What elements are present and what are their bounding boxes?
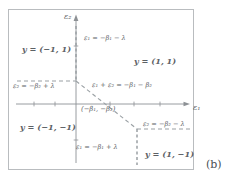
region-label-top-left: y = (−1, 1) (22, 45, 71, 53)
origin-point-label: (−β₁, −β₂) (81, 106, 115, 113)
lower-vertical-dashed-label: ε₁ = −β₁ + λ (76, 144, 118, 151)
diagonal-dashed-label: ε₁ + ε₂ = −β₁ − β₂ (92, 82, 152, 89)
figure-panel: ε₂ ε₁ ε₁ = −β₁ − λ ε₂ = −β₂ + λ ε₁ + ε₂ … (0, 0, 232, 187)
region-label-bottom-left: y = (−1, −1) (20, 123, 76, 131)
region-label-bottom-right: y = (1, −1) (145, 150, 194, 158)
region-label-top-right: y = (1, 1) (134, 57, 176, 65)
x-axis-arrowhead (184, 102, 191, 107)
diagram-canvas (0, 0, 232, 187)
x-axis-label: ε₁ (193, 104, 201, 112)
right-horizontal-dashed-label: ε₂ = −β₂ − λ (143, 121, 185, 128)
left-horizontal-dashed-label: ε₂ = −β₂ + λ (13, 83, 55, 90)
upper-vertical-dashed-label: ε₁ = −β₁ − λ (84, 35, 126, 42)
y-axis-arrowhead (74, 15, 79, 22)
figure-caption: (b) (206, 159, 222, 170)
y-axis-label: ε₂ (64, 13, 72, 21)
